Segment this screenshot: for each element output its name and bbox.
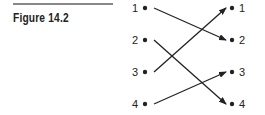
right-node-label: 4	[239, 98, 245, 110]
mapping-arrow	[154, 8, 226, 40]
right-node-dot	[230, 38, 234, 42]
right-node-label: 2	[239, 34, 245, 46]
mapping-arrow	[154, 8, 226, 72]
left-node-dot	[143, 70, 147, 74]
mapping-diagram: 1234 1234	[0, 0, 265, 115]
right-node-label: 3	[239, 66, 245, 78]
left-node-dot	[143, 38, 147, 42]
left-node-dot	[143, 102, 147, 106]
right-node-dot	[230, 102, 234, 106]
right-node-dot	[230, 70, 234, 74]
left-node-label: 3	[132, 66, 138, 78]
left-node-label: 1	[132, 2, 138, 14]
right-node-dot	[230, 6, 234, 10]
left-node-dot	[143, 6, 147, 10]
left-node-label: 2	[132, 34, 138, 46]
mapping-arrow	[154, 72, 226, 104]
right-node-label: 1	[239, 2, 245, 14]
mapping-arrow	[154, 40, 226, 104]
left-node-label: 4	[132, 98, 138, 110]
